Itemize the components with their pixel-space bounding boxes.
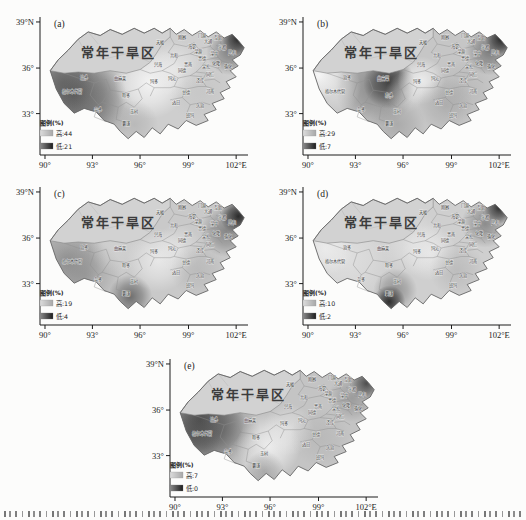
x-tick-label: 93°	[349, 160, 361, 168]
county-label: 互助	[214, 34, 222, 41]
panel-letter: (d)	[317, 189, 328, 200]
county-label: 共和	[170, 52, 178, 59]
x-tick-label: 102°E	[225, 160, 246, 168]
county-label: 天峻	[286, 381, 295, 388]
y-tick-label: 33°	[285, 109, 297, 119]
county-label: 大通	[467, 38, 476, 45]
map-b: 39°N36°33°90°93°96°99°102°E治多曲麻莱格尔木代管杂多称…	[263, 0, 526, 168]
county-label: 民和	[491, 219, 499, 226]
county-label: 乐都	[218, 44, 227, 51]
x-tick-label: 99°	[183, 330, 195, 338]
legend-low-value: 低:7	[319, 142, 331, 151]
legend-low-value: 低:4	[56, 312, 68, 321]
county-label: 民和	[491, 49, 499, 56]
county-label: 兴海	[284, 403, 293, 410]
county-label: 久治	[459, 102, 467, 109]
county-label: 湟中	[340, 392, 348, 399]
county-label: 尖扎	[202, 63, 210, 70]
legend-d: 图例(%)高:10低:2	[303, 289, 335, 321]
panel-letter: (a)	[54, 19, 65, 30]
x-tick-label: 99°	[183, 160, 195, 168]
county-label: 泽库	[326, 419, 334, 426]
arid-zone-label: 常年干旱区	[211, 387, 286, 402]
county-label: 达日	[302, 441, 310, 448]
county-label: 湟中	[473, 50, 481, 57]
county-label: 玛沁	[298, 417, 307, 424]
county-label: 曲麻莱	[377, 245, 390, 252]
y-tick-label: 36°	[22, 233, 34, 243]
province-map: 治多曲麻莱格尔木代管杂多称多玉树囊谦玛多天峻刚察海晏门源大通互助乐都民和湟源湟中…	[297, 189, 515, 317]
x-tick-label: 96°	[397, 160, 409, 168]
panel-b: 39°N36°33°90°93°96°99°102°E治多曲麻莱格尔木代管杂多称…	[263, 0, 526, 168]
y-tick-label: 33°	[285, 279, 297, 289]
county-label: 甘德	[445, 89, 454, 96]
x-tick-label: 96°	[264, 502, 276, 510]
county-label: 刚察	[178, 34, 187, 41]
county-label: 同仁	[336, 413, 344, 420]
county-label: 化隆	[212, 60, 221, 67]
county-label: 班玛	[186, 282, 194, 289]
county-label: 玛多	[280, 420, 288, 427]
legend-a: 图例(%)高:44低:21	[40, 119, 72, 151]
county-label: 河南	[336, 430, 344, 436]
county-label: 囊谦	[385, 290, 394, 297]
county-label: 门源	[461, 32, 470, 39]
county-label: 贵德	[198, 55, 207, 62]
panel-e: 39°N36°33°90°93°96°99°102°E治多曲麻莱格尔木代管杂多称…	[130, 342, 393, 510]
x-tick-label: 99°	[313, 502, 325, 510]
county-label: 格尔木代管	[192, 430, 212, 437]
legend-title: 图例(%)	[170, 461, 194, 469]
county-label: 班玛	[186, 112, 194, 119]
legend-title: 图例(%)	[303, 119, 327, 127]
county-label: 天峻	[419, 209, 428, 216]
county-label: 贵南	[447, 231, 455, 238]
county-label: 刚察	[441, 204, 450, 211]
legend-high-value: 高:44	[56, 129, 72, 138]
county-label: 同仁	[469, 71, 477, 78]
x-tick-label: 102°E	[225, 330, 246, 338]
county-label: 治多	[343, 74, 351, 81]
county-label: 门源	[461, 202, 470, 209]
legend-low-swatch	[170, 485, 183, 491]
y-tick-label: 36°	[285, 233, 297, 243]
legend-low-swatch	[40, 313, 53, 319]
figure-caption-clipped	[4, 511, 522, 517]
county-label: 玛沁	[431, 75, 440, 82]
county-label: 甘德	[182, 259, 191, 266]
county-label: 湟源	[324, 390, 333, 397]
map-d: 39°N36°33°90°93°96°99°102°E治多曲麻莱格尔木代管杂多称…	[263, 170, 526, 338]
county-label: 玉树	[130, 278, 138, 285]
county-label: 泽库	[459, 247, 467, 254]
county-label: 曲麻莱	[377, 75, 390, 82]
county-label: 循化	[224, 233, 233, 240]
county-label: 湟源	[194, 48, 203, 55]
county-label: 玛沁	[431, 245, 440, 252]
county-label: 同仁	[469, 241, 477, 248]
x-tick-label: 90°	[39, 160, 51, 168]
county-label: 大通	[334, 380, 343, 387]
county-label: 民和	[228, 219, 236, 226]
county-label: 格尔木代管	[62, 88, 82, 95]
panel-letter: (e)	[184, 361, 195, 372]
legend-low-swatch	[303, 313, 316, 319]
panel-letter: (c)	[54, 189, 65, 200]
county-label: 囊谦	[122, 120, 131, 127]
county-label: 同仁	[206, 241, 214, 248]
county-label: 乐都	[481, 214, 490, 221]
x-tick-label: 96°	[134, 330, 146, 338]
legend-title: 图例(%)	[303, 289, 327, 297]
legend-high-value: 高:7	[186, 471, 198, 480]
county-label: 互助	[344, 376, 352, 383]
county-label: 湟源	[194, 218, 203, 225]
county-label: 称多	[122, 262, 130, 269]
y-tick-label: 33°	[22, 109, 34, 119]
x-tick-label: 102°E	[355, 502, 376, 510]
county-label: 贵德	[328, 397, 337, 404]
county-label: 尖扎	[465, 233, 473, 240]
x-tick-label: 99°	[446, 330, 458, 338]
y-tick-label: 33°	[22, 279, 34, 289]
x-tick-label: 96°	[134, 160, 146, 168]
county-label: 泽库	[196, 247, 204, 254]
county-label: 玉树	[393, 108, 401, 115]
county-label: 玉树	[260, 450, 268, 457]
